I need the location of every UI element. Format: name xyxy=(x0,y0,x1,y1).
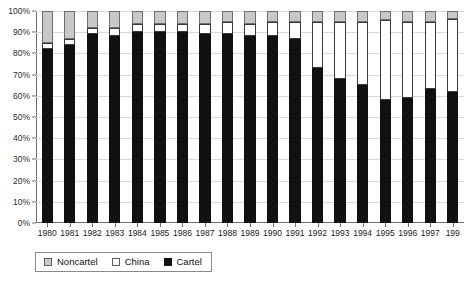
bar-segment-china[interactable] xyxy=(334,22,345,79)
bar-segment-noncartel[interactable] xyxy=(64,11,75,39)
x-tick-mark xyxy=(295,223,296,227)
bar-segment-noncartel[interactable] xyxy=(42,11,53,43)
bar-segment-cartel[interactable] xyxy=(42,49,53,223)
bar-segment-china[interactable] xyxy=(154,24,165,32)
bar-1981[interactable] xyxy=(64,11,75,223)
bar-1980[interactable] xyxy=(42,11,53,223)
bar-1983[interactable] xyxy=(109,11,120,223)
bar-segment-china[interactable] xyxy=(312,22,323,69)
y-tick-label: 60% xyxy=(13,92,30,101)
x-tick-mark xyxy=(47,223,48,227)
bar-segment-china[interactable] xyxy=(425,22,436,90)
bar-segment-cartel[interactable] xyxy=(380,100,391,223)
x-tick-label-1995: 1995 xyxy=(376,228,395,238)
bar-segment-noncartel[interactable] xyxy=(109,11,120,28)
bar-segment-china[interactable] xyxy=(447,19,458,91)
bar-1984[interactable] xyxy=(132,11,143,223)
x-tick-mark xyxy=(205,223,206,227)
x-tick-label-1988: 1988 xyxy=(218,228,237,238)
bar-segment-cartel[interactable] xyxy=(222,34,233,223)
bar-segment-noncartel[interactable] xyxy=(87,11,98,28)
bar-1993[interactable] xyxy=(334,11,345,223)
bar-segment-cartel[interactable] xyxy=(312,68,323,223)
x-tick-label-1986: 1986 xyxy=(173,228,192,238)
bar-segment-china[interactable] xyxy=(222,22,233,35)
bar-segment-china[interactable] xyxy=(380,20,391,101)
bar-segment-china[interactable] xyxy=(177,24,188,32)
bar-segment-noncartel[interactable] xyxy=(357,11,368,22)
bar-segment-cartel[interactable] xyxy=(154,32,165,223)
bar-segment-noncartel[interactable] xyxy=(199,11,210,24)
bar-1985[interactable] xyxy=(154,11,165,223)
bar-1988[interactable] xyxy=(222,11,233,223)
bar-series-container xyxy=(36,11,464,223)
bar-1987[interactable] xyxy=(199,11,210,223)
bar-segment-china[interactable] xyxy=(357,22,368,86)
bar-segment-noncartel[interactable] xyxy=(312,11,323,22)
bar-segment-noncartel[interactable] xyxy=(267,11,278,22)
bar-segment-cartel[interactable] xyxy=(109,36,120,223)
bar-segment-noncartel[interactable] xyxy=(289,11,300,22)
bar-1995[interactable] xyxy=(380,11,391,223)
bar-segment-noncartel[interactable] xyxy=(132,11,143,24)
x-tick-mark xyxy=(340,223,341,227)
x-tick-mark xyxy=(227,223,228,227)
bar-segment-noncartel[interactable] xyxy=(334,11,345,22)
bar-1991[interactable] xyxy=(289,11,300,223)
x-tick-label-1992: 1992 xyxy=(308,228,327,238)
bar-segment-china[interactable] xyxy=(132,24,143,32)
legend-item-china[interactable]: China xyxy=(112,257,150,267)
bar-segment-cartel[interactable] xyxy=(177,32,188,223)
bar-segment-china[interactable] xyxy=(199,24,210,35)
bar-segment-cartel[interactable] xyxy=(87,34,98,223)
bar-199[interactable] xyxy=(447,11,458,223)
bar-segment-cartel[interactable] xyxy=(447,92,458,223)
bar-segment-china[interactable] xyxy=(267,22,278,37)
bar-segment-china[interactable] xyxy=(244,24,255,37)
plot-area xyxy=(36,11,464,223)
x-tick-mark xyxy=(160,223,161,227)
bar-segment-cartel[interactable] xyxy=(267,36,278,223)
bar-1997[interactable] xyxy=(425,11,436,223)
bar-segment-cartel[interactable] xyxy=(334,79,345,223)
bar-segment-cartel[interactable] xyxy=(244,36,255,223)
x-tick-label-1993: 1993 xyxy=(331,228,350,238)
bar-segment-cartel[interactable] xyxy=(64,45,75,223)
x-tick-mark xyxy=(318,223,319,227)
bar-segment-cartel[interactable] xyxy=(357,85,368,223)
bar-segment-china[interactable] xyxy=(109,28,120,36)
bar-segment-noncartel[interactable] xyxy=(402,11,413,22)
x-tick-mark xyxy=(273,223,274,227)
x-tick-mark xyxy=(115,223,116,227)
bar-segment-noncartel[interactable] xyxy=(425,11,436,22)
y-tick-label: 0% xyxy=(18,219,30,228)
chart-legend: NoncartelChinaCartel xyxy=(35,252,212,272)
x-tick-label-199: 199 xyxy=(446,228,460,238)
bar-segment-noncartel[interactable] xyxy=(177,11,188,24)
y-tick-label: 80% xyxy=(13,49,30,58)
bar-1990[interactable] xyxy=(267,11,278,223)
bar-1992[interactable] xyxy=(312,11,323,223)
bar-segment-cartel[interactable] xyxy=(199,34,210,223)
bar-segment-cartel[interactable] xyxy=(289,39,300,223)
legend-item-cartel[interactable]: Cartel xyxy=(164,257,202,267)
bar-segment-china[interactable] xyxy=(289,22,300,39)
bar-segment-china[interactable] xyxy=(402,22,413,98)
bar-segment-cartel[interactable] xyxy=(132,32,143,223)
bar-segment-cartel[interactable] xyxy=(425,89,436,223)
bar-1989[interactable] xyxy=(244,11,255,223)
legend-item-noncartel[interactable]: Noncartel xyxy=(44,257,98,267)
x-tick-label-1982: 1982 xyxy=(83,228,102,238)
bar-1986[interactable] xyxy=(177,11,188,223)
y-tick-label: 100% xyxy=(8,7,30,16)
bar-segment-noncartel[interactable] xyxy=(380,11,391,19)
bar-1994[interactable] xyxy=(357,11,368,223)
y-tick-label: 20% xyxy=(13,176,30,185)
bar-1996[interactable] xyxy=(402,11,413,223)
bar-segment-noncartel[interactable] xyxy=(447,11,458,19)
bar-segment-noncartel[interactable] xyxy=(244,11,255,24)
bar-segment-noncartel[interactable] xyxy=(154,11,165,24)
bar-1982[interactable] xyxy=(87,11,98,223)
bar-segment-cartel[interactable] xyxy=(402,98,413,223)
bar-segment-noncartel[interactable] xyxy=(222,11,233,22)
